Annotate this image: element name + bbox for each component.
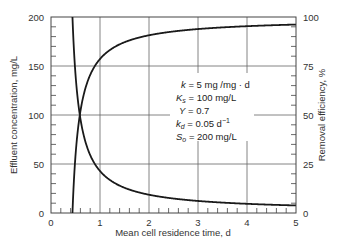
x-tick-label: 1	[97, 217, 102, 228]
param-k: k = 5 mg /mg · d	[181, 79, 250, 90]
y-tick-labels-left: 050100150200	[28, 12, 44, 219]
chart: 012345 050100150200 0255075100 Mean cell…	[0, 0, 339, 250]
y-tick-label-left: 50	[33, 159, 44, 170]
y-tick-label-left: 0	[39, 208, 44, 219]
y-tick-label-left: 100	[28, 110, 44, 121]
y-tick-label-right: 100	[303, 12, 319, 23]
y-tick-label-right: 0	[303, 208, 308, 219]
x-tick-label: 5	[293, 217, 298, 228]
parameter-annotations: k = 5 mg /mg · d Ks = 100 mg/L Y = 0.7 k…	[170, 73, 254, 143]
x-tick-label: 0	[48, 217, 53, 228]
y-tick-label-left: 150	[28, 61, 44, 72]
y-axis-title-left: Effluent concentration, mg/L	[8, 56, 19, 174]
param-ks: Ks = 100 mg/L	[176, 92, 236, 104]
y-tick-label-left: 200	[28, 12, 44, 23]
x-axis-title: Mean cell residence time, d	[115, 227, 231, 238]
y-tick-label-right: 75	[303, 61, 314, 72]
param-kd: kd = 0.05 d−1	[176, 117, 230, 130]
y-tick-label-right: 50	[303, 110, 314, 121]
y-tick-label-right: 25	[303, 159, 314, 170]
x-tick-label: 4	[244, 217, 249, 228]
y-axis-title-right: Removal efficiency, %	[316, 68, 327, 161]
param-y: Y = 0.7	[179, 105, 209, 116]
